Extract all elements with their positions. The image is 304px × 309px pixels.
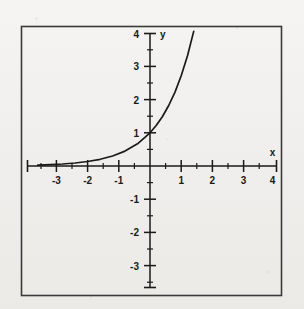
x-tick-label: 4 (270, 175, 276, 186)
y-tick-label: -2 (130, 227, 139, 238)
exponential-curve (38, 31, 194, 165)
x-axis-label: x (270, 147, 276, 158)
x-axis (27, 160, 277, 172)
y-tick-labels: -3 -2 -1 1 2 3 4 (130, 29, 139, 272)
graph-figure: -3 -2 -1 1 2 3 4 -3 -2 -1 1 2 3 4 y x (0, 0, 304, 309)
coordinate-plane: -3 -2 -1 1 2 3 4 -3 -2 -1 1 2 3 4 y x (0, 0, 304, 309)
x-tick-label: 3 (241, 175, 247, 186)
y-axis-label: y (160, 29, 166, 40)
x-tick-label: 1 (178, 175, 184, 186)
x-tick-label: -2 (83, 175, 92, 186)
x-tick-label: -1 (114, 175, 123, 186)
x-tick-label: -3 (52, 175, 61, 186)
x-tick-label: 2 (210, 175, 216, 186)
y-tick-label: 3 (133, 61, 139, 72)
y-axis (144, 33, 156, 288)
y-tick-label: 4 (133, 29, 139, 40)
y-tick-label: -1 (130, 194, 139, 205)
y-tick-label: 2 (133, 95, 139, 106)
y-tick-label: -3 (130, 261, 139, 272)
y-tick-label: 1 (133, 128, 139, 139)
x-tick-labels: -3 -2 -1 1 2 3 4 (52, 175, 276, 186)
